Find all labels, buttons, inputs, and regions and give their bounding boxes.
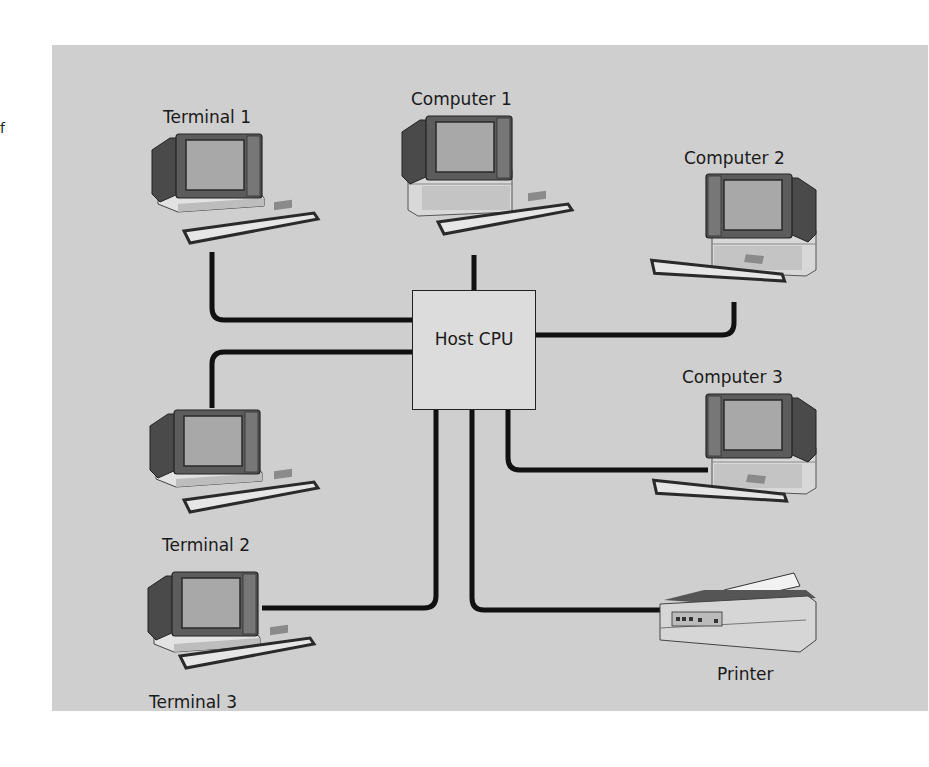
cable-computer-2 bbox=[536, 302, 734, 335]
computer-3-icon bbox=[651, 394, 816, 524]
computer-3-label: Computer 3 bbox=[682, 367, 783, 387]
cable-terminal-3 bbox=[262, 410, 436, 608]
terminal-2-icon bbox=[150, 410, 318, 512]
terminal-1-label: Terminal 1 bbox=[163, 107, 251, 127]
terminal-2-label: Terminal 2 bbox=[162, 535, 250, 555]
cable-computer-3 bbox=[508, 410, 708, 470]
cable-terminal-1 bbox=[212, 252, 412, 320]
printer-icon bbox=[660, 573, 816, 652]
cable-printer bbox=[472, 410, 660, 610]
computer-2-label: Computer 2 bbox=[684, 148, 785, 168]
host-cpu-label: Host CPU bbox=[413, 329, 535, 349]
printer-label: Printer bbox=[717, 664, 774, 684]
terminal-1-icon bbox=[152, 134, 318, 243]
computer-1-icon bbox=[402, 116, 572, 234]
computer-1-label: Computer 1 bbox=[411, 89, 512, 109]
cable-terminal-2 bbox=[212, 352, 412, 408]
terminal-3-icon bbox=[148, 572, 314, 668]
computer-2-icon bbox=[649, 174, 816, 304]
terminal-3-label: Terminal 3 bbox=[149, 692, 237, 712]
host-cpu-box: Host CPU bbox=[412, 290, 536, 410]
